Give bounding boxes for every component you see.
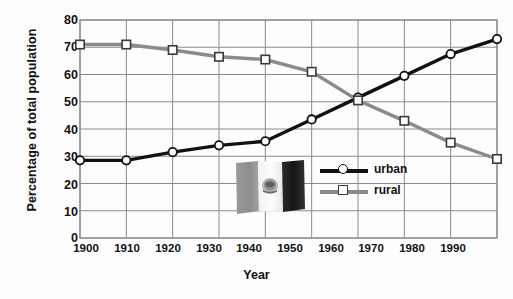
mexican-flag-image: [232, 159, 310, 216]
square-marker-icon: [338, 185, 348, 195]
legend-label-rural: rural: [374, 184, 401, 196]
chart-legend: urban rural: [318, 160, 424, 202]
circle-marker-icon: [338, 164, 348, 174]
legend-label-urban: urban: [374, 163, 407, 175]
data-series: [76, 35, 501, 165]
x-axis-title: Year: [0, 268, 513, 282]
chart-container: Percentage of total population 80 70 60 …: [0, 0, 513, 299]
legend-item-urban: urban: [318, 160, 424, 181]
plot-area: [0, 0, 513, 299]
legend-item-rural: rural: [318, 181, 424, 202]
